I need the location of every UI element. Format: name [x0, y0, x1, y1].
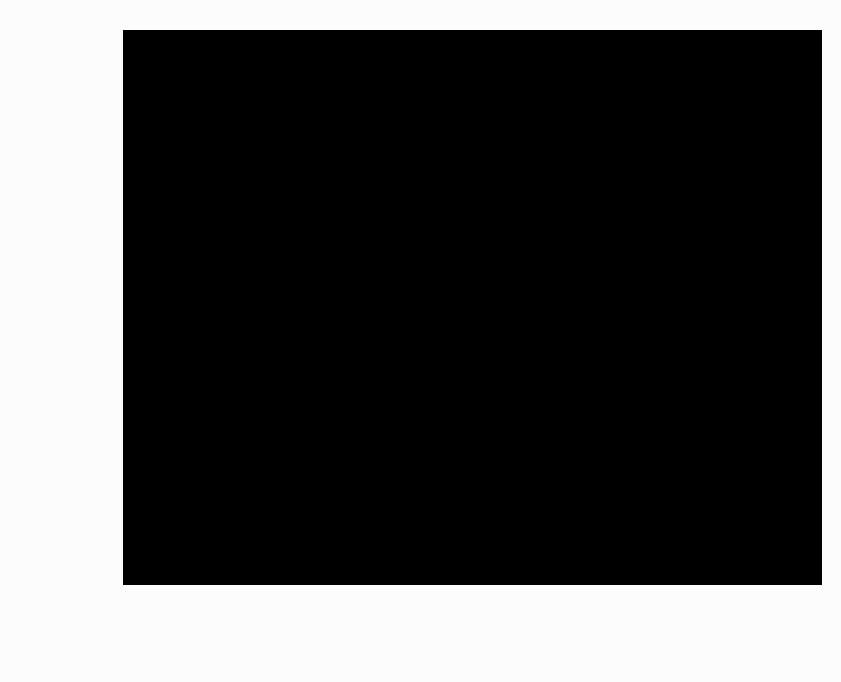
- plot-panel-background: [123, 30, 822, 585]
- stacked-area-chart: [0, 0, 841, 682]
